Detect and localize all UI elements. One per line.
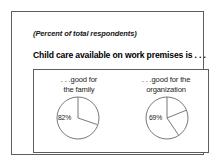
figure-headline: Child care available on work premises is…: [33, 50, 206, 60]
panel-label-organization-line2: organization: [146, 85, 186, 94]
panel-box: . . .good for the family 82% . . .good f…: [33, 69, 209, 153]
panel-family: . . .good for the family 82%: [34, 70, 122, 152]
panel-label-organization: . . .good for the organization: [120, 75, 208, 94]
panel-label-family-line2: the family: [64, 85, 95, 94]
pie-chart-organization: 69%: [145, 96, 189, 140]
panel-label-family: . . .good for the family: [34, 75, 122, 94]
figure-subtitle: (Percent of total respondents): [33, 29, 137, 38]
outer-frame: (Percent of total respondents) Child car…: [11, 11, 204, 155]
panel-label-family-line1: . . .good for: [61, 75, 97, 84]
panel-label-organization-line1: . . .good for the: [142, 75, 191, 84]
figure-root: (Percent of total respondents) Child car…: [0, 0, 217, 167]
panel-organization: . . .good for the organization 69%: [120, 70, 208, 152]
pie-value-family: 82%: [58, 114, 71, 121]
pie-chart-family: 82%: [56, 96, 100, 140]
pie-value-organization: 69%: [149, 114, 162, 121]
